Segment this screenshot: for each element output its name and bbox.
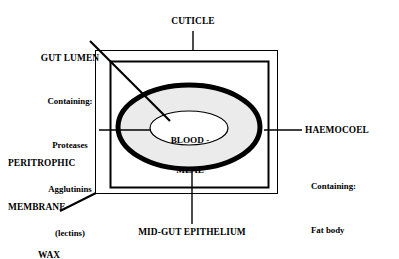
haemocoel-label: HAEMOCOEL [305, 125, 397, 135]
haemocoel-contents-list: Containing: Fat body Salivary glands Ova… [311, 147, 399, 259]
gut-lumen-heading: GUT LUMEN [16, 53, 124, 63]
haemocoel-line-0: Containing: [311, 182, 399, 192]
wax-layer-line-1: WAX [38, 250, 98, 259]
wax-layer-label: WAX LAYER [38, 215, 98, 259]
gut-lumen-line-0: Containing: [16, 97, 124, 107]
blood-meal-label: BLOOD - MEAL [155, 116, 225, 196]
peritrophic-membrane-line-2: MEMBRANE [8, 202, 100, 212]
peritrophic-membrane-line-1: PERITROPHIC [8, 158, 100, 168]
blood-meal-line-2: MEAL [155, 166, 225, 176]
diagram-canvas: GUT LUMEN Containing: Proteases Agglutin… [0, 0, 399, 259]
haemocoel-line-1: Fat body [311, 226, 399, 236]
blood-meal-line-1: BLOOD - [155, 136, 225, 146]
cuticle-label: CUTICLE [150, 16, 236, 26]
mid-gut-epithelium-label: MID-GUT EPITHELIUM [118, 227, 266, 237]
